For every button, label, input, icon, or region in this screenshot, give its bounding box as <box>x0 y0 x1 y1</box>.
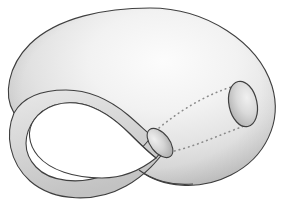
surface-diagram: Immersed non-orientable surface with han… <box>0 0 284 209</box>
